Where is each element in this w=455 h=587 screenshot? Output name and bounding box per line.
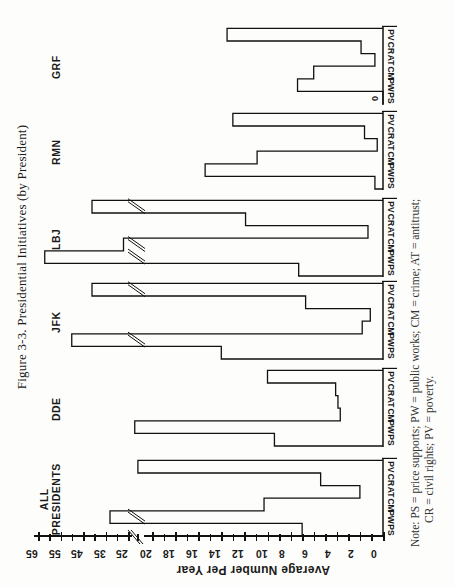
- axis-tick-label: 18: [163, 548, 185, 560]
- bar-plot: [0, 0, 455, 587]
- axis-tick: [360, 532, 362, 541]
- axis-tick-label: 20: [140, 548, 162, 560]
- bar-group-outline: [205, 113, 383, 189]
- axis-tick: [383, 532, 385, 541]
- axis-tick: [291, 532, 293, 541]
- axis-tick: [175, 532, 177, 541]
- axis-tick-label: 4: [325, 548, 347, 560]
- axis-tick-label: 6: [302, 548, 324, 560]
- bar-group-outline: [72, 283, 383, 359]
- axis-tick: [279, 534, 281, 541]
- axis-tick: [268, 532, 270, 541]
- axis-tick-label: 35: [94, 548, 116, 560]
- axis-tick: [117, 534, 119, 541]
- axis-tick: [302, 534, 304, 541]
- note-line-1: Note: PS = price supports; PW = public w…: [409, 199, 421, 547]
- axis-tick-label: 45: [71, 548, 93, 560]
- chart-rotated-frame: Figure 3-3. Presidential Initiatives (by…: [0, 0, 455, 587]
- axis-tick-label: 14: [209, 548, 231, 560]
- axis-tick-label: 25: [116, 548, 138, 560]
- axis-tick: [337, 532, 339, 541]
- axis-tick: [371, 534, 373, 541]
- axis-tick: [152, 532, 154, 541]
- axis-tick: [38, 532, 40, 541]
- axis-tick: [210, 534, 212, 541]
- axis-tick-label: 16: [186, 548, 208, 560]
- axis-tick: [137, 534, 139, 541]
- axis-tick: [233, 534, 235, 541]
- axis-tick: [128, 532, 130, 541]
- figure-note: Note: PS = price supports; PW = public w…: [408, 47, 436, 547]
- axis-tick-label: 0: [371, 548, 393, 560]
- bar-group-outline: [135, 370, 383, 446]
- axis-tick: [314, 532, 316, 541]
- axis-tick-label: 12: [232, 548, 254, 560]
- axis-tick: [325, 534, 327, 541]
- axis-tick-label: 2: [348, 548, 370, 560]
- axis-line: [144, 536, 383, 538]
- axis-tick: [198, 532, 200, 541]
- axis-tick: [244, 532, 246, 541]
- bar-group-outline: [45, 200, 383, 276]
- axis-tick: [348, 534, 350, 541]
- axis-tick: [164, 534, 166, 541]
- axis-tick: [83, 532, 85, 541]
- axis-tick-label: 8: [279, 548, 301, 560]
- axis-tick-label: 10: [256, 548, 278, 560]
- axis-tick: [256, 534, 258, 541]
- axis-tick: [94, 534, 96, 541]
- axis-tick-label: 65: [26, 548, 48, 560]
- axis-tick: [221, 532, 223, 541]
- axis-tick: [61, 532, 63, 541]
- axis-tick: [187, 534, 189, 541]
- axis-tick: [49, 534, 51, 541]
- axis-title: Average Number Per Year: [176, 563, 330, 577]
- bar-group-outline: [227, 28, 383, 104]
- note-line-2: CR = civil rights; PV = poverty.: [422, 47, 436, 547]
- axis-tick: [72, 534, 74, 541]
- axis-tick: [106, 532, 108, 541]
- axis-tick-label: 55: [49, 548, 71, 560]
- bar-group-outline: [110, 460, 383, 536]
